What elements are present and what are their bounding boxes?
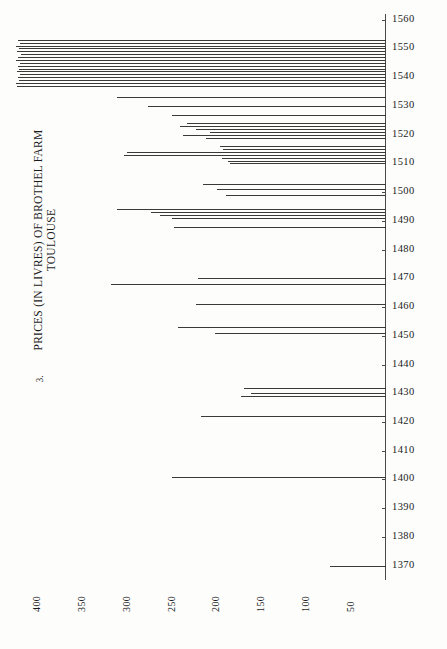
y-axis-tick-label: 1460 [392,300,415,311]
price-bar [330,566,386,567]
price-bar [178,327,386,328]
price-bar [20,43,386,44]
y-axis-tick [382,221,386,222]
y-axis-tick [382,479,386,480]
price-bar [111,284,386,285]
price-bar [174,227,386,228]
price-bar [223,149,386,150]
y-axis-tick [382,508,386,509]
y-axis-tick-label: 1540 [392,70,415,81]
plot-area [0,14,386,580]
price-bar [180,126,386,127]
y-axis-spine [385,14,386,580]
price-bar [18,77,386,78]
y-axis-tick-label: 1440 [392,358,415,369]
y-axis-tick-label: 1480 [392,243,415,254]
chart-page: PRICES (IN LIVRES) OF BROTHEL FARM TOULO… [0,0,447,649]
y-axis-tick-label: 1400 [392,472,415,483]
price-bar [206,138,386,139]
price-bar [18,57,386,58]
price-bar [124,155,386,156]
x-axis-tick-label: 50 [345,601,356,612]
price-bar [117,97,386,98]
price-bar [18,40,386,41]
x-axis-tick-label: 150 [255,596,266,612]
price-bar [198,278,387,279]
price-bar [16,83,386,84]
price-bar [217,189,386,190]
y-axis-tick-label: 1410 [392,444,415,455]
price-bar [151,212,386,213]
y-axis-tick [382,307,386,308]
y-axis-tick-label: 1560 [392,13,415,24]
y-axis-tick-label: 1390 [392,501,415,512]
price-bar [215,333,386,334]
price-bar [196,129,386,130]
price-bar [220,146,386,147]
price-bar [160,215,386,216]
price-bar [196,304,386,305]
y-axis-tick-label: 1530 [392,99,415,110]
price-bar [20,63,386,64]
y-axis-tick-label: 1510 [392,156,415,167]
y-axis-tick-label: 1430 [392,386,415,397]
price-bar [17,51,386,52]
price-bar [210,132,386,133]
y-axis-tick [382,422,386,423]
price-bar [251,393,386,394]
y-axis-tick-label: 1500 [392,185,415,196]
y-axis-tick [382,365,386,366]
price-bar [172,218,386,219]
x-axis-tick-label: 350 [76,596,87,612]
x-axis-tick-label: 400 [31,596,42,612]
price-bar [228,161,386,162]
y-axis-tick [382,537,386,538]
y-axis-tick [382,336,386,337]
price-bar [20,74,386,75]
y-axis-tick-label: 1370 [392,559,415,570]
price-bar [17,86,386,87]
price-bar [18,66,386,67]
y-axis-tick [382,250,386,251]
y-axis-tick [382,192,386,193]
price-bar [16,60,386,61]
y-axis-tick-label: 1450 [392,329,415,340]
x-axis-tick-label: 200 [210,596,221,612]
y-axis-tick-label: 1470 [392,271,415,282]
x-axis-tick-label: 250 [166,596,177,612]
price-bar [127,152,386,153]
x-axis-tick-label: 300 [121,596,132,612]
price-bar [17,71,386,72]
price-bar [19,48,386,49]
price-bar [117,209,386,210]
y-axis-tick-label: 1550 [392,41,415,52]
price-bar [201,416,386,417]
y-axis-tick [382,451,386,452]
y-axis-tick [382,20,386,21]
price-bar [172,477,386,478]
price-bar [230,163,386,164]
x-axis-labels: 40035030025020015010050 [0,580,386,640]
price-bar [19,80,386,81]
price-bar [148,106,386,107]
price-bar [222,158,386,159]
price-bar [226,195,386,196]
price-bar [16,46,386,47]
price-bar [172,115,386,116]
price-bar [183,135,386,136]
price-bar [187,123,386,124]
x-axis-tick-label: 100 [300,596,311,612]
price-bar [241,396,386,397]
y-axis-tick-label: 1380 [392,530,415,541]
price-bar [203,184,386,185]
price-bar [19,69,386,70]
price-bar [244,388,386,389]
y-axis-tick-label: 1520 [392,128,415,139]
y-axis-tick-label: 1420 [392,415,415,426]
y-axis-tick-label: 1490 [392,214,415,225]
price-bar [21,54,386,55]
